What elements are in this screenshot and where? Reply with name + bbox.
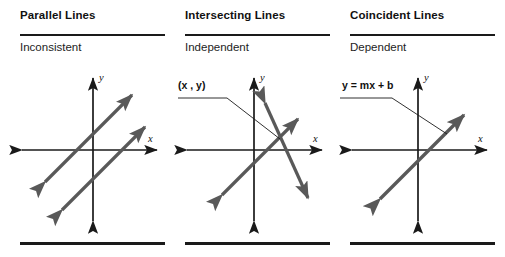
- panel-top-rule: [185, 34, 330, 36]
- y-axis-label: y: [423, 72, 429, 83]
- plotted-line-1: [380, 115, 464, 199]
- intersection-point-annotation: (x , y): [178, 79, 205, 91]
- graph-svg: y x: [0, 58, 168, 238]
- plotted-line-1: [45, 95, 132, 182]
- panel-top-rule: [20, 34, 165, 36]
- panel-title: Intersecting Lines: [185, 9, 285, 21]
- panel-parallel-lines: Parallel Lines Inconsistent: [0, 0, 168, 257]
- y-axis-label: y: [98, 72, 104, 83]
- panel-coincident-lines: Coincident Lines Dependent: [330, 0, 498, 257]
- graph-parallel-lines: y x: [0, 58, 168, 238]
- x-axis-label: x: [312, 133, 318, 144]
- x-axis-label: x: [147, 133, 153, 144]
- systems-of-equations-figure: Parallel Lines Inconsistent: [0, 0, 505, 257]
- plotted-line-1: [222, 119, 298, 195]
- x-axis-label: x: [477, 133, 483, 144]
- panel-title: Parallel Lines: [20, 9, 96, 21]
- panel-intersecting-lines: Intersecting Lines Independent: [165, 0, 333, 257]
- panel-bottom-rule: [185, 242, 330, 245]
- panel-title: Coincident Lines: [350, 9, 444, 21]
- panel-subtitle: Inconsistent: [20, 41, 81, 53]
- line-equation-annotation: y = mx + b: [342, 79, 393, 91]
- y-axis-label: y: [259, 72, 265, 83]
- panel-bottom-rule: [20, 242, 165, 245]
- panel-subtitle: Independent: [185, 41, 249, 53]
- annotation-leader-line: [340, 98, 447, 134]
- panel-subtitle: Dependent: [350, 41, 406, 53]
- plotted-line-2: [62, 127, 145, 210]
- panel-bottom-rule: [350, 242, 495, 245]
- panel-top-rule: [350, 34, 495, 36]
